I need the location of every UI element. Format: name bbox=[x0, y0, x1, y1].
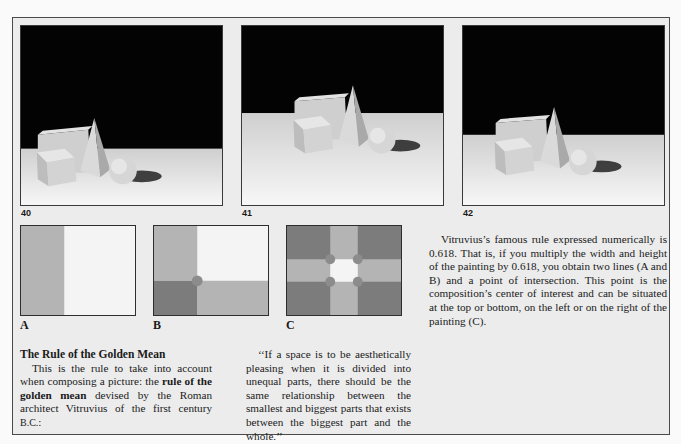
era-text: B.C. bbox=[20, 417, 38, 428]
diagram-b bbox=[153, 225, 269, 316]
vitruvius-quote: ‘‘If a space is to be aesthetically plea… bbox=[246, 348, 411, 443]
figure-number-40: 40 bbox=[21, 208, 31, 218]
still-life-image bbox=[21, 26, 222, 205]
page-panel: 40 41 bbox=[12, 17, 670, 435]
still-life-image bbox=[242, 26, 443, 205]
still-life-image bbox=[463, 26, 664, 205]
photo-41 bbox=[241, 25, 444, 206]
photo-42 bbox=[462, 25, 665, 206]
golden-mean-vertical-division bbox=[21, 226, 135, 315]
golden-mean-section: The Rule of the Golden Mean This is the … bbox=[20, 348, 212, 430]
photo-40 bbox=[20, 25, 223, 206]
trailing-colon: : bbox=[38, 416, 41, 428]
figure-number-42: 42 bbox=[463, 208, 473, 218]
section-body: This is the rule to take into account wh… bbox=[20, 362, 212, 430]
diagram-label-c: C bbox=[286, 318, 295, 333]
golden-mean-explanation: Vitruvius’s famous rule expressed numeri… bbox=[429, 233, 667, 328]
section-heading: The Rule of the Golden Mean bbox=[20, 348, 212, 362]
diagram-c bbox=[286, 225, 402, 316]
golden-mean-intersection bbox=[154, 226, 268, 315]
diagram-label-b: B bbox=[153, 318, 161, 333]
diagram-a bbox=[20, 225, 136, 316]
figure-number-41: 41 bbox=[242, 208, 252, 218]
diagram-label-a: A bbox=[20, 318, 29, 333]
golden-mean-four-points bbox=[287, 226, 401, 315]
